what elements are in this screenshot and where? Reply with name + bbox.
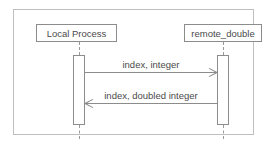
lifeline-local-process-upper <box>79 42 80 55</box>
lifeline-remote-double-upper <box>223 42 224 55</box>
lifeline-local-process-lower <box>79 125 80 139</box>
message-line-index-integer[interactable] <box>85 72 217 73</box>
message-label-index-integer: index, integer <box>85 59 217 70</box>
participant-box-local-process[interactable]: Local Process <box>36 24 117 42</box>
message-line-index-doubled-integer[interactable] <box>85 103 217 104</box>
sequence-diagram-canvas: Local Process remote_double index, integ… <box>0 0 267 145</box>
participant-box-remote-double[interactable]: remote_double <box>184 24 262 42</box>
lifeline-remote-double-lower <box>223 125 224 139</box>
diagram-frame: Local Process remote_double index, integ… <box>13 9 254 135</box>
message-label-index-doubled-integer: index, doubled integer <box>75 90 227 101</box>
